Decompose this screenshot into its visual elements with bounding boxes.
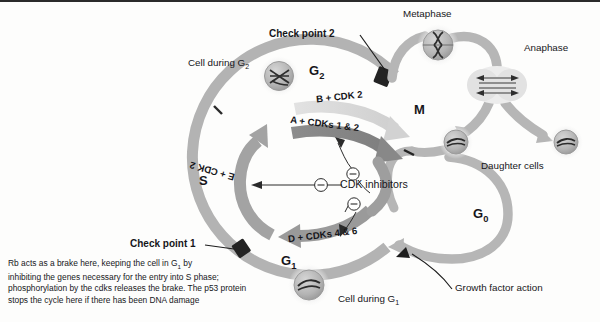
cdk-inhibitors-label: CDK inhibitors (340, 179, 408, 191)
cell-g1-label: Cell during G1 (338, 294, 399, 307)
cell-anaphase-label: Anaphase (524, 43, 568, 54)
check-point-1-label: Check point 1 (130, 238, 196, 249)
g0-loop (388, 157, 508, 259)
phase-label-s: S (199, 174, 208, 189)
cell-metaphase-glyph (417, 24, 459, 66)
cell-metaphase-label: Metaphase (403, 9, 451, 20)
minus-circle-icon (348, 198, 360, 210)
cell-g2-label: Cell during G2 (188, 58, 249, 71)
cell-daughter-label: Daughter cells (481, 161, 544, 172)
phase-label-g0: G0 (473, 207, 488, 224)
cell-daughter-left-glyph (439, 125, 473, 159)
cell-anaphase-glyph (467, 66, 527, 104)
m-phase-loop (387, 36, 553, 208)
phase-label-g1: G1 (281, 254, 296, 271)
cell-g2-glyph (259, 56, 299, 96)
minus-circle-icon (315, 179, 328, 192)
cyclin-e-arrow (240, 124, 272, 235)
check-point-2-label: Check point 2 (269, 28, 335, 39)
cell-cycle-diagram: G2 M S G1 G0 B + CDK 2 A + CDKs 1 & 2 D … (0, 2, 600, 322)
cell-daughter-right-glyph (549, 125, 583, 159)
caption-text: Rb acts as a brake here, keeping the cel… (8, 258, 258, 306)
phase-label-m: M (414, 103, 425, 118)
phase-label-g2: G2 (309, 64, 324, 81)
growth-factor-action-label: Growth factor action (455, 283, 543, 294)
